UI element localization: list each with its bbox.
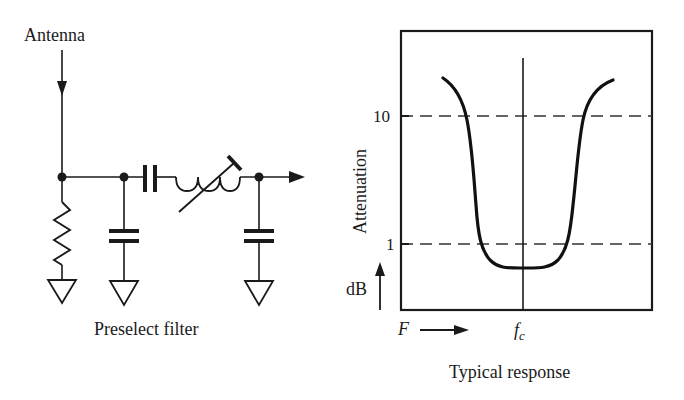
typical-response-chart: 10 1 Attenuation dB F fc Typical respons… [346,31,652,382]
attenuation-curve [443,78,613,268]
x-right-arrow-icon [420,325,469,335]
diagram-canvas: Antenna [0,0,684,400]
shunt-resistor [54,177,70,280]
shunt-capacitor-1 [109,177,139,281]
chart-caption: Typical response [449,362,570,382]
series-capacitor [145,165,155,192]
ground-icon [110,281,138,305]
preselect-filter-schematic: Antenna [24,25,305,339]
y-up-arrow-icon [375,262,385,310]
ground-icon [245,281,273,305]
antenna-input-arrow-icon [57,50,67,177]
variable-inductor [176,156,241,212]
x-axis-label: F [397,319,410,339]
y-tick-10: 10 [373,107,390,126]
ground-icon [48,280,76,303]
antenna-label: Antenna [24,25,85,45]
y-tick-1: 1 [386,235,395,254]
schematic-caption: Preselect filter [94,319,198,339]
shunt-capacitor-2 [244,177,274,281]
output-arrow-icon [289,171,305,183]
y-axis-label: Attenuation [350,149,370,234]
center-frequency-label: fc [514,320,525,343]
y-unit-label: dB [346,279,367,299]
